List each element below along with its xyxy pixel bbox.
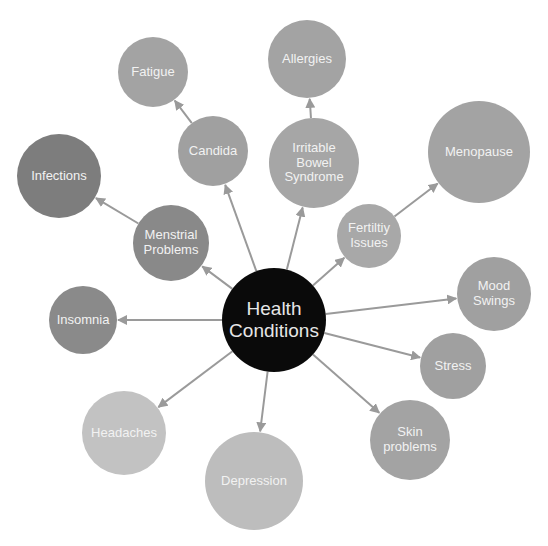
node-headaches: Headaches — [82, 391, 166, 475]
node-label-line: Menopause — [441, 145, 517, 160]
node-fatigue: Fatigue — [118, 37, 188, 107]
edge-center-to-skin-problems — [313, 354, 379, 412]
node-menopause: Menopause — [428, 101, 530, 203]
node-label: Candida — [185, 144, 241, 159]
node-label: Infections — [27, 169, 91, 184]
node-label-line: Swings — [469, 294, 519, 309]
edge-candida-to-fatigue — [175, 101, 192, 123]
edge-center-to-irritable-bowel-syndrome — [287, 208, 303, 270]
node-label: Stress — [431, 359, 476, 374]
node-label-line: Mood — [469, 279, 519, 294]
node-label: HealthConditions — [225, 298, 323, 342]
edge-center-to-mood-swings — [326, 298, 457, 313]
node-label-line: Skin — [379, 425, 440, 440]
node-label: FertiltiyIssues — [344, 221, 394, 251]
node-label: Allergies — [278, 52, 336, 67]
edge-center-to-fertility-issues — [313, 258, 344, 286]
node-label-line: Fertiltiy — [344, 221, 394, 236]
node-menstrial-problems: MenstrialProblems — [133, 205, 209, 281]
node-label-line: Candida — [185, 144, 241, 159]
node-stress: Stress — [420, 333, 486, 399]
node-insomnia: Insomnia — [49, 286, 117, 354]
node-label: MoodSwings — [469, 279, 519, 309]
node-label-line: Irritable — [280, 141, 347, 156]
node-allergies: Allergies — [268, 20, 346, 98]
edge-fertility-issues-to-menopause — [394, 184, 437, 217]
node-label-line: Conditions — [225, 320, 323, 342]
node-depression: Depression — [205, 432, 303, 530]
node-label-line: Syndrome — [280, 170, 347, 185]
node-label: Fatigue — [127, 65, 178, 80]
node-label-line: Issues — [344, 236, 394, 251]
node-label-line: Headaches — [87, 426, 161, 441]
node-label: Depression — [217, 474, 291, 489]
mind-map-diagram: HealthConditionsFatigueCandidaInfections… — [0, 0, 548, 546]
node-label-line: Menstrial — [140, 228, 203, 243]
node-label-line: Depression — [217, 474, 291, 489]
node-candida: Candida — [178, 116, 248, 186]
node-mood-swings: MoodSwings — [457, 257, 531, 331]
node-label-line: Infections — [27, 169, 91, 184]
center-node-health-conditions: HealthConditions — [222, 268, 326, 372]
node-label-line: Bowel — [280, 156, 347, 171]
node-label: MenstrialProblems — [140, 228, 203, 258]
edge-irritable-bowel-syndrome-to-allergies — [310, 99, 311, 118]
edge-center-to-stress — [324, 333, 420, 358]
edge-center-to-headaches — [158, 351, 232, 407]
node-label: Menopause — [441, 145, 517, 160]
edge-center-to-depression — [260, 372, 267, 432]
edge-center-to-menstrial-problems — [202, 266, 232, 289]
node-label: Skinproblems — [379, 425, 440, 455]
node-label-line: Health — [225, 298, 323, 320]
node-label-line: Stress — [431, 359, 476, 374]
node-infections: Infections — [17, 134, 101, 218]
node-label: IrritableBowelSyndrome — [280, 141, 347, 186]
edge-menstrial-problems-to-infections — [96, 198, 138, 223]
node-label-line: Fatigue — [127, 65, 178, 80]
node-label-line: problems — [379, 440, 440, 455]
node-label-line: Problems — [140, 243, 203, 258]
edge-center-to-candida — [225, 185, 256, 271]
node-label-line: Insomnia — [53, 313, 114, 328]
node-irritable-bowel-syndrome: IrritableBowelSyndrome — [269, 118, 359, 208]
node-label-line: Allergies — [278, 52, 336, 67]
node-skin-problems: Skinproblems — [370, 400, 450, 480]
node-label: Headaches — [87, 426, 161, 441]
node-label: Insomnia — [53, 313, 114, 328]
node-fertility-issues: FertiltiyIssues — [337, 204, 401, 268]
